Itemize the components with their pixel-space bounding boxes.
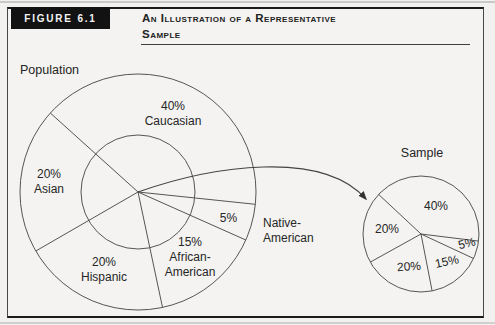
population-hispanic-name: Hispanic (81, 270, 127, 285)
population-asian-pct: 20% (34, 167, 64, 182)
sample-caucasian-pct-text: 40% (424, 199, 448, 213)
sample-asian-pct: 20% (375, 222, 399, 237)
population-native-pct-text: 5% (220, 210, 237, 224)
population-hispanic-label: 20% Hispanic (81, 255, 127, 285)
sample-hispanic-pct: 20% (396, 258, 421, 275)
population-african-american-label: 15% African- American (165, 234, 216, 279)
population-caucasian-label: 40% Caucasian (145, 99, 202, 129)
population-title-text: Population (20, 63, 79, 77)
population-african-name-line1: African- (165, 249, 216, 264)
population-asian-name: Asian (34, 182, 64, 197)
sample-chart-title: Sample (401, 146, 443, 161)
sample-native-pct: 5% (457, 234, 477, 253)
sample-pie-boundary-african-american (421, 234, 432, 291)
population-native-name-line2: American (263, 231, 314, 246)
population-african-pct: 15% (165, 234, 216, 249)
representative-sample-diagram (0, 0, 495, 325)
sample-asian-pct-text: 20% (375, 222, 399, 236)
sample-native-pct-text: 5% (457, 234, 477, 252)
population-hispanic-pct: 20% (81, 255, 127, 270)
sample-pie-boundary-hispanic (370, 234, 421, 262)
population-native-name-line1: Native- (263, 216, 314, 231)
population-african-name-line2: American (165, 264, 216, 279)
sample-title-text: Sample (401, 146, 443, 160)
population-native-pct: 5% (220, 210, 237, 225)
population-to-sample-arrow (138, 167, 366, 199)
figure-page: FIGURE 6.1 An Illustration of a Represen… (0, 0, 495, 325)
population-pie-boundary-caucasian (138, 192, 255, 204)
population-pie-boundary-african-american (138, 192, 163, 307)
population-pie-boundary-hispanic (36, 192, 138, 251)
population-asian-label: 20% Asian (34, 167, 64, 197)
population-caucasian-name: Caucasian (145, 114, 202, 129)
population-native-american-label: Native- American (263, 216, 314, 246)
population-chart-title: Population (20, 63, 79, 78)
population-caucasian-pct: 40% (145, 99, 202, 114)
sample-hispanic-pct-text: 20% (396, 258, 421, 274)
sample-caucasian-pct: 40% (424, 199, 448, 214)
